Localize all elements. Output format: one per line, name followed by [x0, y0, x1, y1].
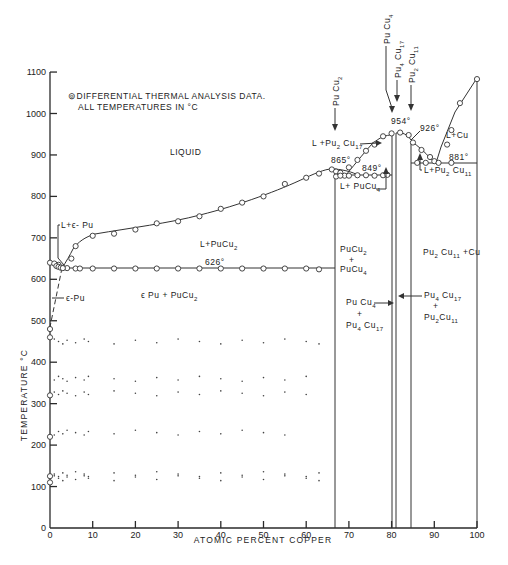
dta-point	[240, 266, 245, 271]
region-labels: LIQUID L+PuCu2 ϵ Pu + PuCu2 L+ϵ- Pu ϵ-Pu…	[52, 130, 480, 303]
measurement-dot	[113, 472, 115, 474]
measurement-dot	[62, 433, 64, 435]
temperature-labels: 954° 926° 865° 849° 626° 881°	[205, 116, 469, 267]
measurement-dot	[220, 378, 222, 380]
measurement-dot	[318, 343, 320, 345]
dta-point	[415, 160, 420, 165]
dta-point	[363, 173, 368, 178]
measurement-dot	[284, 338, 286, 340]
dta-point	[218, 206, 223, 211]
measurement-dot	[241, 429, 243, 431]
field-pucu2-pucu4-bottom: PuCu4	[340, 264, 367, 276]
measurement-dot	[62, 343, 64, 345]
dta-point	[111, 266, 116, 271]
measurement-dot	[58, 476, 60, 478]
measurement-dot	[135, 475, 137, 477]
measurement-dot	[66, 476, 68, 478]
dta-point	[133, 227, 138, 232]
y-tick-label: 500	[31, 316, 46, 326]
measurement-dot	[53, 391, 55, 393]
dta-point	[474, 76, 479, 81]
dta-point	[410, 140, 415, 145]
pucu2-arrowhead	[332, 124, 338, 131]
measurement-dot	[66, 475, 68, 477]
measurement-dot	[156, 395, 158, 397]
measurement-dot	[263, 432, 265, 434]
x-tick-label: 10	[88, 530, 98, 540]
dta-point	[398, 130, 403, 135]
x-tick-label: 70	[344, 530, 354, 540]
dta-point	[197, 266, 202, 271]
measurement-dot	[58, 394, 60, 396]
field-plus-3: +	[433, 301, 438, 311]
x-tick-label: 100	[469, 530, 484, 540]
measurement-dot	[177, 379, 179, 381]
measurement-dot	[113, 390, 115, 392]
measurement-dot	[220, 472, 222, 474]
dta-point	[346, 173, 351, 178]
measurement-dot	[284, 391, 286, 393]
x-tick-label: 90	[429, 530, 439, 540]
measurement-dot	[53, 475, 55, 477]
measurement-dot	[199, 476, 201, 478]
measurement-dot	[113, 480, 115, 482]
measurement-dot	[156, 432, 158, 434]
measurement-dot	[113, 433, 115, 435]
region-l-eps-pu: L+ϵ- Pu	[61, 220, 94, 230]
field-pu4cu17-pu2cu11-top: Pu4 Cu17	[424, 290, 462, 302]
measurement-dot	[83, 338, 85, 340]
dta-point	[316, 267, 321, 272]
cu-liquidus	[436, 78, 477, 163]
x-tick-label: 20	[130, 530, 140, 540]
measurement-dot	[58, 477, 60, 479]
pu4cu17-arrowhead	[394, 95, 400, 102]
dta-point	[338, 173, 343, 178]
measurement-dot	[83, 379, 85, 381]
measurement-dot	[88, 477, 90, 479]
label-pu4cu17: Pu4 Cu17	[393, 40, 405, 78]
measurement-dot	[113, 343, 115, 345]
field-plus-2: +	[357, 309, 362, 319]
pucu4-arrowhead	[389, 106, 395, 113]
measurement-dot	[199, 431, 201, 433]
dta-point	[197, 214, 202, 219]
temp-626: 626°	[205, 257, 225, 267]
measurement-dot	[53, 379, 55, 381]
measurement-dot	[220, 343, 222, 345]
temp-865: 865°	[331, 155, 351, 165]
measurement-dot	[66, 339, 68, 341]
measurement-dot	[66, 392, 68, 394]
dta-point	[355, 157, 360, 162]
measurement-dot	[305, 477, 307, 479]
measurement-dot	[62, 390, 64, 392]
measurement-dot	[66, 380, 68, 382]
region-eps-pu-pucu2: ϵ Pu + PuCu2	[141, 290, 198, 302]
measurement-dot	[284, 379, 286, 381]
measurement-dot	[135, 339, 137, 341]
measurement-dot	[75, 395, 77, 397]
temp-926: 926°	[420, 123, 440, 133]
label-pucu4: Pu Cu4	[382, 14, 394, 44]
dta-point	[47, 434, 52, 439]
y-tick-label: 700	[31, 233, 46, 243]
measurement-dot	[241, 339, 243, 341]
measurement-dot	[88, 341, 90, 343]
label-pu2cu11: Pu2 Cu11	[407, 46, 419, 83]
label-pucu2: Pu Cu2	[331, 76, 343, 106]
measurement-dot	[58, 341, 60, 343]
measurement-dot	[263, 471, 265, 473]
measurement-dot	[75, 432, 77, 434]
measurement-dot	[88, 394, 90, 396]
temp-954: 954°	[391, 116, 411, 126]
dta-point	[240, 200, 245, 205]
y-tick-label: 0	[41, 523, 46, 533]
measurement-dot	[53, 434, 55, 436]
compound-labels: Pu Cu2 Pu Cu4 Pu4 Cu17 Pu2 Cu11	[331, 14, 419, 106]
measurement-dot	[220, 480, 222, 482]
measurement-dot	[263, 377, 265, 379]
region-liquid: LIQUID	[170, 147, 201, 157]
dta-point	[406, 132, 411, 137]
dta-point	[282, 266, 287, 271]
measurement-dot	[241, 380, 243, 382]
measurement-dot	[113, 378, 115, 380]
